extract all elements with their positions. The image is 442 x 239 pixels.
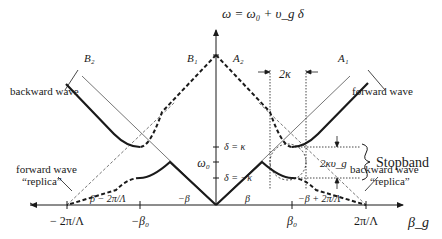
lower-branch-right xyxy=(216,162,292,205)
annotation-forward-wave: forward wave xyxy=(352,85,413,97)
label-B1: B₁ xyxy=(187,52,198,64)
label-A1: A₁ xyxy=(337,52,349,64)
annotation-forward-wave-replica-1: forward wave xyxy=(16,163,77,175)
label-B2: B₂ xyxy=(84,52,95,64)
x-axis-label: β_g xyxy=(407,215,429,230)
x-axis-left-arrow xyxy=(30,202,37,208)
x-tick-neg-2pi: − 2π/Λ xyxy=(50,214,84,228)
y-tick-omega0: ω₀ xyxy=(197,156,210,170)
label-A2: A₂ xyxy=(232,52,244,64)
annotation-stopband: Stopband xyxy=(376,155,429,170)
x-tick-beta0: β₀ xyxy=(286,214,297,228)
label-neg-beta: −β xyxy=(178,193,190,204)
annotation-backward-wave: backward wave xyxy=(10,85,79,97)
y-tick-delta-kappa: δ = κ xyxy=(224,141,245,152)
annotation-backward-wave-replica-2: “replica” xyxy=(370,175,410,187)
label-beta: β xyxy=(244,193,250,204)
x-tick-neg-beta0: −β₀ xyxy=(131,214,149,228)
label-beta-minus-2pi: β − 2π/Λ xyxy=(89,193,126,204)
label-neg-beta-plus-2pi: −β + 2π/Λ xyxy=(298,193,340,204)
annotation-two-kappa-vg: 2κυ_g xyxy=(320,157,347,169)
x-tick-2pi: 2π/Λ xyxy=(354,214,378,228)
annotation-two-kappa: 2κ xyxy=(279,67,291,81)
y-axis-label: ω = ω₀ + υ_g δ xyxy=(222,6,305,21)
dotted-guides xyxy=(270,70,360,190)
y-tick-delta-neg-kappa: δ = −κ xyxy=(224,172,252,183)
dispersion-diagram: ω = ω₀ + υ_g δ β_g − 2π/Λ −β₀ β₀ 2π/Λ δ … xyxy=(0,0,442,239)
stopband-circle xyxy=(270,144,306,180)
annotation-forward-wave-replica-2: “replica” xyxy=(22,175,62,187)
pointer-lines xyxy=(58,70,385,191)
